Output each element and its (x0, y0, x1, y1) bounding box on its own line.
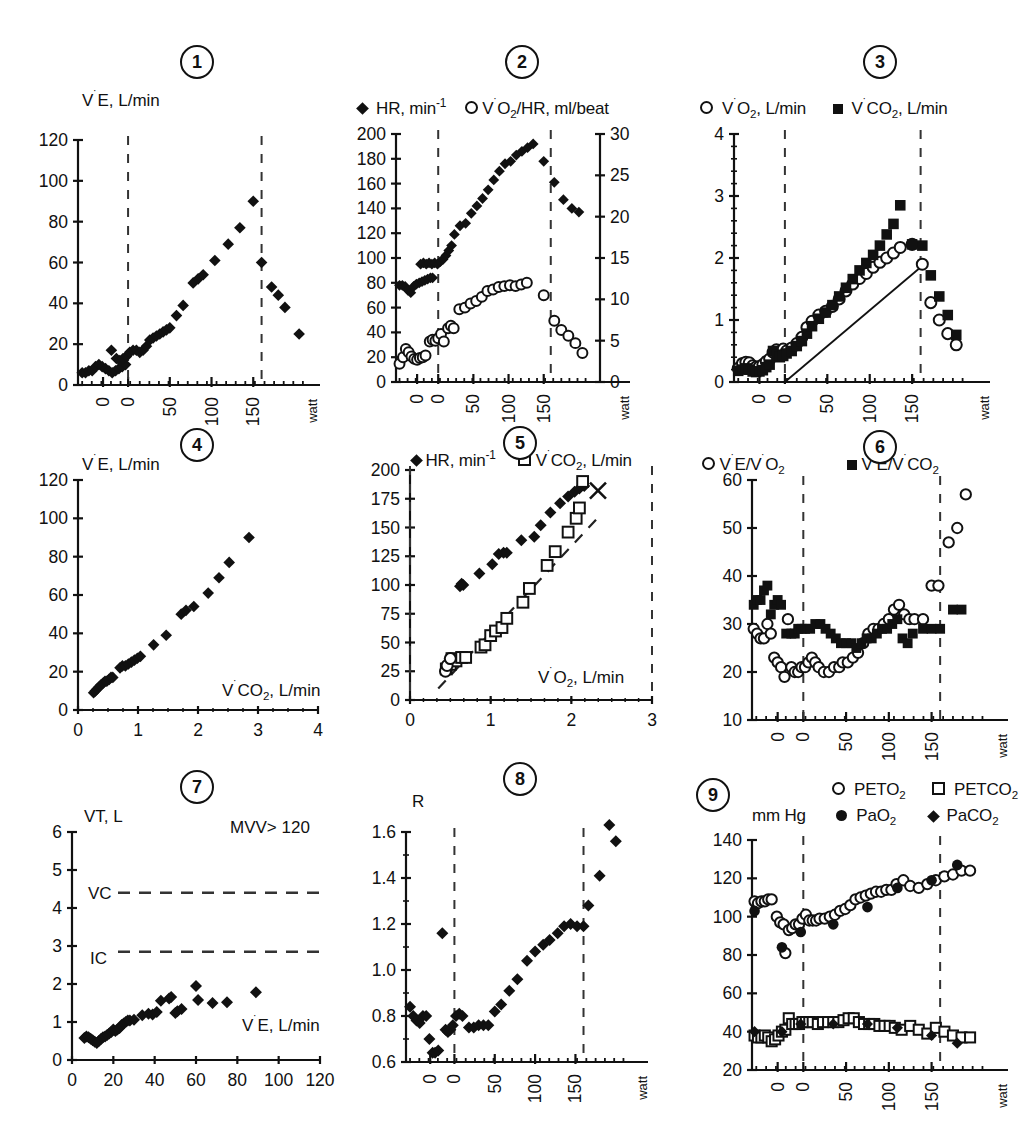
svg-text:200: 200 (371, 460, 400, 480)
svg-text:0: 0 (407, 394, 427, 404)
svg-text:0: 0 (118, 397, 138, 407)
svg-text:20: 20 (49, 334, 69, 354)
panel-8-svg: 0.60.81.01.21.41.60050100150watt (300, 770, 690, 1140)
panel-number-6: 6 (863, 430, 897, 464)
svg-text:1: 1 (133, 720, 143, 740)
svg-text:0.8: 0.8 (372, 1006, 396, 1026)
svg-text:40: 40 (723, 566, 743, 586)
svg-text:20: 20 (104, 1070, 124, 1090)
svg-text:watt: watt (995, 1084, 1010, 1109)
svg-text:0: 0 (749, 394, 769, 404)
panel-1: 1 V˙E, L/min 0204060801001200050100150wa… (0, 0, 340, 420)
svg-text:100: 100 (525, 1074, 545, 1103)
panel-number-5: 5 (503, 426, 537, 460)
svg-text:0: 0 (73, 720, 83, 740)
svg-text:5: 5 (610, 331, 620, 351)
panel-6-svg: 1020304050600050100150watt (660, 420, 1034, 800)
svg-text:2: 2 (714, 248, 724, 268)
svg-text:120: 120 (39, 130, 68, 150)
svg-text:80: 80 (49, 547, 69, 567)
svg-text:0.6: 0.6 (372, 1052, 396, 1072)
svg-text:200: 200 (357, 124, 386, 144)
svg-text:0: 0 (775, 394, 795, 404)
svg-text:0: 0 (67, 1070, 77, 1090)
svg-text:180: 180 (357, 149, 386, 169)
svg-text:125: 125 (371, 546, 400, 566)
svg-text:30: 30 (610, 124, 630, 144)
svg-text:50: 50 (485, 1074, 505, 1094)
panel-number-8: 8 (503, 762, 537, 796)
panel-3: 3 V˙O2, L/min V˙CO2, L/min 0123400501001… (660, 0, 1034, 420)
svg-text:4: 4 (52, 898, 62, 918)
svg-text:175: 175 (371, 489, 400, 509)
svg-text:140: 140 (713, 830, 742, 850)
svg-text:0: 0 (58, 700, 68, 720)
svg-text:120: 120 (357, 223, 386, 243)
svg-text:160: 160 (357, 174, 386, 194)
svg-text:150: 150 (922, 1082, 942, 1111)
svg-text:20: 20 (610, 207, 630, 227)
svg-text:1.4: 1.4 (372, 868, 397, 888)
svg-text:140: 140 (357, 198, 386, 218)
svg-text:100: 100 (499, 394, 519, 423)
panel-2-svg: 0204060801001201401601802000510152025300… (300, 0, 690, 420)
panel-2: 2 HR, min-1 V˙O2/HR, ml/beat 02040608010… (300, 0, 690, 420)
svg-text:100: 100 (371, 575, 400, 595)
svg-text:1: 1 (52, 1012, 62, 1032)
svg-text:watt: watt (635, 1076, 650, 1101)
svg-text:50: 50 (463, 394, 483, 414)
svg-text:60: 60 (49, 585, 69, 605)
svg-text:1.2: 1.2 (372, 914, 396, 934)
svg-text:50: 50 (836, 1082, 856, 1102)
panel-number-4: 4 (180, 428, 214, 462)
panel-5-svg: 02550751001251501752000123 (300, 420, 690, 790)
svg-text:0: 0 (444, 1074, 464, 1084)
svg-text:50: 50 (723, 518, 743, 538)
svg-text:40: 40 (49, 293, 69, 313)
svg-text:0: 0 (390, 690, 400, 710)
svg-text:60: 60 (49, 253, 69, 273)
svg-text:80: 80 (723, 945, 743, 965)
svg-text:0: 0 (376, 372, 386, 392)
svg-text:40: 40 (49, 623, 69, 643)
panel-9: 9 PETO2 PETCO2 mm Hg PaO2 PaCO2 20406080… (660, 770, 1034, 1140)
svg-text:150: 150 (565, 1074, 585, 1103)
svg-text:1.0: 1.0 (372, 960, 397, 980)
svg-text:3: 3 (253, 720, 263, 740)
svg-text:150: 150 (902, 394, 922, 423)
svg-text:150: 150 (371, 518, 400, 538)
svg-text:100: 100 (860, 394, 880, 423)
svg-text:100: 100 (39, 508, 68, 528)
svg-text:100: 100 (879, 732, 899, 761)
panel-1-svg: 0204060801001200050100150watt (0, 0, 340, 420)
svg-text:25: 25 (610, 165, 629, 185)
svg-text:3: 3 (647, 710, 657, 730)
svg-text:watt: watt (617, 396, 632, 421)
svg-text:50: 50 (836, 732, 856, 752)
svg-text:100: 100 (39, 171, 68, 191)
svg-text:120: 120 (39, 470, 68, 490)
svg-text:40: 40 (723, 1022, 743, 1042)
svg-text:80: 80 (228, 1070, 248, 1090)
svg-text:100: 100 (357, 248, 386, 268)
panel-6: 6 V˙E/V˙O2 V˙E/V˙CO2 1020304050600050100… (660, 420, 1034, 800)
svg-text:50: 50 (160, 397, 180, 417)
svg-text:0: 0 (58, 375, 68, 395)
panel-8: 8 R 0.60.81.01.21.41.60050100150watt (300, 770, 690, 1140)
panel-number-3: 3 (863, 45, 897, 79)
svg-text:watt: watt (977, 396, 992, 421)
panel-number-7: 7 (180, 770, 214, 804)
panel-4-svg: 02040608010012001234 (0, 420, 340, 790)
svg-text:6: 6 (52, 822, 62, 842)
svg-text:0: 0 (405, 710, 415, 730)
svg-text:0: 0 (714, 372, 724, 392)
svg-text:0: 0 (93, 397, 113, 407)
svg-text:50: 50 (817, 394, 837, 414)
svg-text:0: 0 (52, 1050, 62, 1070)
svg-text:40: 40 (145, 1070, 165, 1090)
svg-text:120: 120 (713, 868, 742, 888)
svg-text:1.6: 1.6 (372, 822, 396, 842)
svg-text:20: 20 (367, 347, 387, 367)
svg-text:5: 5 (52, 860, 62, 880)
svg-text:25: 25 (381, 661, 400, 681)
